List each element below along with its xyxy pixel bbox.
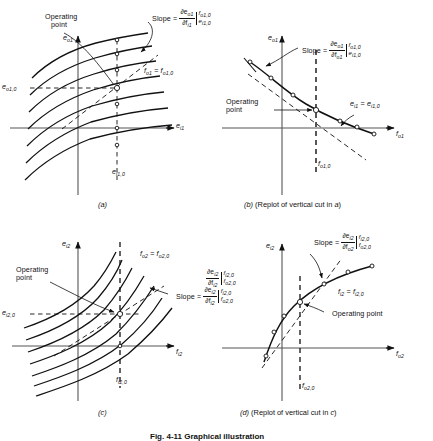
panel-a-slope-annotation: Slope = ∂eo1 ∂fi1 fo1,0 ei1,0 bbox=[152, 8, 211, 29]
panel-c-slope-overflow: ∂ei2 ∂fi2 fi2,0 fo2,0 bbox=[206, 268, 236, 289]
panel-b-y-axis-label: eo1 bbox=[268, 34, 278, 44]
panel-d-tag-caption: (d) (Replot of vertical cut in c) bbox=[240, 408, 337, 417]
panel-d-y-axis-label: ei2 bbox=[266, 242, 274, 252]
panel-c-operating-point-label: Operating point bbox=[16, 266, 48, 281]
panel-c-x-axis-label: fi2 bbox=[176, 348, 182, 358]
panel-b-data-markers bbox=[248, 60, 376, 136]
panel-d-slope-leader bbox=[310, 254, 322, 278]
panel-d-x-axis-label: fo2 bbox=[396, 350, 404, 360]
panel-b-x-axis-label: fo1 bbox=[396, 130, 404, 140]
panel-c-overflow-bar bbox=[221, 272, 222, 285]
panel-b-curve bbox=[250, 62, 374, 134]
panel-a-x-axis-label: ei1 bbox=[176, 122, 184, 132]
panel-a-curve-family bbox=[25, 33, 172, 180]
panel-a-plot bbox=[0, 0, 216, 218]
panel-d-family-label: fi2 = fi2,0 bbox=[338, 288, 364, 298]
panel-d-condition-bar bbox=[356, 236, 357, 249]
panel-a: Operating point Slope = ∂eo1 ∂fi1 fo1,0 … bbox=[0, 0, 216, 218]
panel-d-tangent-line bbox=[262, 258, 342, 368]
panel-d-operating-point-label: Operating point bbox=[332, 310, 383, 318]
panel-a-condition-bar bbox=[196, 12, 197, 25]
panel-c: Operating point ei2 fi2 ei2,0 fi2,0 fo2 … bbox=[0, 216, 216, 429]
panel-a-tag: (a) bbox=[98, 200, 107, 209]
panel-d: ∂ei2 ∂fi2 fi2,0 fo2,0 ei2 fo2 Slope = ∂e… bbox=[214, 216, 433, 429]
panel-c-family-label: fo2 = fo2,0 bbox=[140, 250, 169, 260]
panel-a-family-label: fo1 = fo1,0 bbox=[144, 67, 173, 77]
panel-b-tangent-line bbox=[248, 74, 366, 160]
panel-a-y-axis-label: eo1 bbox=[63, 34, 73, 44]
panel-c-y-axis-label: ei2 bbox=[62, 240, 70, 250]
panel-b-tag-caption: (b) (Replot of vertical cut in a) bbox=[244, 200, 341, 209]
panel-b-condition-bar bbox=[346, 44, 347, 57]
panel-c-slope-leader bbox=[150, 288, 168, 294]
panel-d-slope-annotation: Slope = ∂ei2 ∂fo2 fi2,0 fo2,0 bbox=[314, 232, 371, 253]
panel-c-plot bbox=[0, 216, 216, 429]
panel-b-family-label: ei1 = ei1,0 bbox=[350, 100, 380, 110]
panel-c-y-level-label: ei2,0 bbox=[2, 309, 15, 319]
panel-b-operating-point-label: Operating point bbox=[226, 98, 258, 113]
panel-c-tag: (c) bbox=[98, 408, 107, 417]
panel-b: eo1 fo1 Slope = ∂eo1 ∂fo1 fo1,0 ei1,0 Op… bbox=[214, 0, 433, 218]
panel-d-x-dashed-label: fo2,0 bbox=[302, 382, 315, 392]
panel-c-x-dashed-label: fi2,0 bbox=[116, 376, 127, 386]
panel-b-x-dashed-label: fo1,0 bbox=[318, 160, 331, 170]
panel-a-y-level-label: eo1,0 bbox=[2, 83, 17, 93]
figure-caption: Fig. 4-11 Graphical illustration bbox=[150, 432, 264, 441]
panel-d-operating-leader bbox=[304, 304, 324, 312]
panel-a-operating-point-label: Operating point bbox=[45, 13, 77, 28]
panel-b-slope-annotation: Slope = ∂eo1 ∂fo1 fo1,0 ei1,0 bbox=[302, 40, 361, 61]
panel-a-x-dashed-label: ei1,0 bbox=[112, 168, 125, 178]
